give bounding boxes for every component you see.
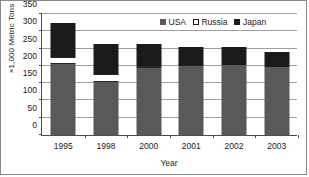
legend-item-russia: Russia	[193, 17, 227, 27]
bar-group	[255, 14, 298, 135]
bar-segment-usa	[264, 67, 289, 135]
bar-segment-usa	[221, 65, 246, 135]
bar-group	[127, 14, 170, 135]
bar-segment-japan	[51, 23, 76, 57]
x-tick-label: 2003	[267, 141, 286, 151]
x-tick-label: 2002	[225, 141, 244, 151]
bar-segment-usa	[93, 82, 118, 135]
legend-label: Japan	[243, 17, 266, 27]
usa-legend-swatch	[160, 19, 166, 25]
y-axis-title: ×1,000 Metric Tons	[7, 0, 16, 94]
plot-area: 050100150200250300350 199519982000200120…	[41, 14, 297, 136]
bar-segment-japan	[221, 47, 246, 65]
bars-layer	[42, 14, 297, 135]
x-tick-mark	[255, 135, 256, 138]
x-tick-mark	[298, 135, 299, 138]
chart-legend: USARussiaJapan	[158, 16, 268, 28]
japan-legend-swatch	[234, 19, 240, 25]
bar-group	[213, 14, 256, 135]
x-tick-label: 2001	[182, 141, 201, 151]
bar-segment-russia	[93, 74, 118, 82]
x-tick-mark	[127, 135, 128, 138]
bar-segment-russia	[136, 66, 161, 68]
x-tick-label: 1995	[54, 141, 73, 151]
y-tick-label: 250	[23, 34, 37, 44]
legend-label: Russia	[201, 17, 227, 27]
legend-item-usa: USA	[160, 17, 186, 27]
x-tick-label: 2000	[139, 141, 158, 151]
x-tick-label: 1998	[97, 141, 116, 151]
bar-group	[170, 14, 213, 135]
x-tick-mark	[213, 135, 214, 138]
y-tick-label: 150	[23, 68, 37, 78]
bar-segment-usa	[136, 68, 161, 135]
bar-segment-russia	[51, 57, 76, 65]
x-tick-mark	[85, 135, 86, 138]
y-tick-label: 50	[28, 103, 37, 113]
y-tick-label: 350	[23, 0, 37, 9]
x-tick-mark	[170, 135, 171, 138]
legend-label: USA	[169, 17, 186, 27]
y-tick-label: 0	[32, 120, 37, 130]
bar-segment-japan	[136, 44, 161, 66]
bar-group	[85, 14, 128, 135]
y-tick-label: 200	[23, 51, 37, 61]
bar-segment-japan	[264, 52, 289, 67]
y-tick-label: 300	[23, 16, 37, 26]
x-axis-title: Year	[41, 158, 297, 168]
bar-segment-japan	[93, 44, 118, 74]
legend-item-japan: Japan	[234, 17, 266, 27]
bar-group	[42, 14, 85, 135]
bar-segment-usa	[51, 64, 76, 135]
bar-segment-japan	[179, 47, 204, 65]
y-tick-label: 100	[23, 85, 37, 95]
stacked-bar-chart: ×1,000 Metric Tons 050100150200250300350…	[0, 0, 309, 177]
russia-legend-swatch	[193, 19, 199, 25]
bar-segment-usa	[179, 66, 204, 135]
